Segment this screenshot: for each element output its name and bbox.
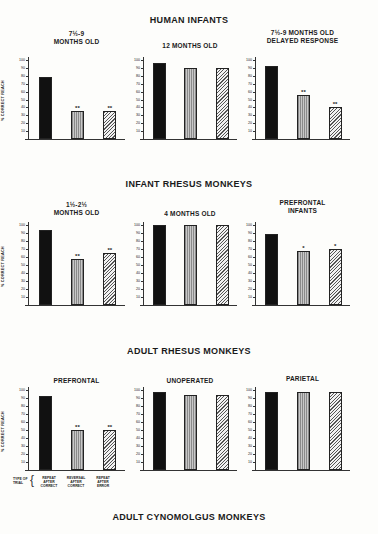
x-axis [25, 470, 125, 471]
y-tick-label: 90 [15, 396, 25, 400]
bar-repeat-after-correct [265, 392, 278, 470]
plot-area [255, 387, 350, 470]
y-tick-label: 10 [242, 460, 252, 464]
bar-repeat-after-error [329, 392, 342, 470]
y-tick-label: 90 [242, 396, 252, 400]
trial-type-2: REVERSAL AFTER CORRECT [64, 476, 88, 488]
chart-title: PREFRONTAL [28, 377, 125, 385]
y-tick-label: 60 [130, 420, 140, 424]
y-tick-label: 10 [15, 460, 25, 464]
bar-chart: PREFRONTAL102030405060708090100% CORRECT… [14, 0, 125, 534]
chart-title: UNOPERATED [143, 377, 237, 385]
y-axis-label: % CORRECT REACH [1, 411, 5, 452]
y-tick-label: 70 [15, 412, 25, 416]
bar-reversal-after-correct [71, 430, 84, 470]
y-axis-label: % CORRECT REACH [1, 246, 5, 287]
y-tick-label: 30 [130, 444, 140, 448]
bar-reversal-after-correct [184, 395, 197, 470]
x-axis [140, 470, 237, 471]
y-tick-label: 90 [130, 396, 140, 400]
significance-marker: ** [103, 424, 116, 430]
y-tick-label: 40 [242, 436, 252, 440]
brace: { [30, 474, 34, 486]
bar-repeat-after-correct [39, 396, 52, 470]
y-tick-label: 100 [15, 388, 25, 392]
plot-area: **** [28, 387, 125, 470]
y-tick-label: 60 [242, 420, 252, 424]
bar-repeat-after-error [216, 395, 229, 470]
x-axis [252, 470, 350, 471]
y-axis-label: % CORRECT REACH [1, 80, 5, 121]
y-tick-label: 60 [15, 420, 25, 424]
y-tick-label: 40 [130, 436, 140, 440]
bar-chart: PARIETAL102030405060708090100 [241, 0, 350, 534]
y-tick-label: 80 [15, 404, 25, 408]
y-tick-label: 40 [15, 436, 25, 440]
y-tick-label: 50 [15, 428, 25, 432]
y-tick-label: 50 [242, 428, 252, 432]
y-tick-label: 100 [242, 388, 252, 392]
trial-type-3: REPEAT AFTER ERROR [92, 476, 114, 488]
bar-repeat-after-error [103, 430, 116, 470]
chart-title: PARIETAL [255, 375, 350, 383]
y-tick-label: 30 [15, 444, 25, 448]
y-tick-label: 20 [242, 452, 252, 456]
trial-type-label: TYPE OF TRIAL [13, 477, 29, 485]
y-tick-label: 70 [130, 412, 140, 416]
bar-chart: UNOPERATED102030405060708090100 [129, 0, 237, 534]
y-tick-label: 80 [130, 404, 140, 408]
y-tick-label: 20 [15, 452, 25, 456]
y-tick-label: 20 [130, 452, 140, 456]
bar-reversal-after-correct [297, 392, 310, 470]
y-tick-label: 70 [242, 412, 252, 416]
y-tick-label: 30 [242, 444, 252, 448]
plot-area [143, 387, 237, 470]
y-tick-label: 10 [130, 460, 140, 464]
significance-marker: ** [71, 424, 84, 430]
y-tick-label: 50 [130, 428, 140, 432]
y-tick-label: 80 [242, 404, 252, 408]
bar-repeat-after-correct [153, 392, 166, 470]
y-tick-label: 100 [130, 388, 140, 392]
trial-type-1: REPEAT AFTER CORRECT [38, 476, 60, 488]
